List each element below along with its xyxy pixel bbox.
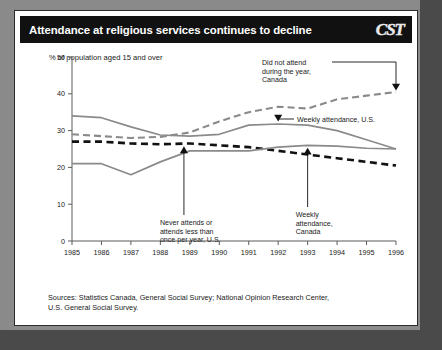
annotation-arrow [304, 148, 312, 155]
series-line [72, 142, 396, 166]
annotation-leader [332, 62, 396, 84]
x-tick-label: 1994 [329, 248, 345, 257]
annotation-label: Canada [262, 76, 287, 84]
annotation-never-attends-us: Never attends orattends less thanonce pe… [160, 219, 221, 244]
annotation-label: Did not attend [262, 59, 306, 67]
x-tick-label: 1989 [182, 248, 198, 257]
page-title: Attendance at religious services continu… [29, 24, 312, 36]
x-tick-label: 1991 [241, 248, 257, 257]
y-axis-ticks: 01020304050 [57, 53, 72, 246]
y-tick-label: 20 [57, 163, 65, 172]
annotation-label: attendance, [296, 220, 333, 228]
annotation-label: during the year, [262, 68, 311, 76]
series-line [72, 92, 396, 138]
x-tick-label: 1986 [93, 248, 109, 257]
outer-frame-right [420, 0, 442, 350]
x-tick-label: 1985 [64, 248, 80, 257]
sources-line-2: U.S. General Social Survey. [48, 303, 393, 313]
chart-sources: Sources: Statistics Canada, General Soci… [48, 293, 393, 313]
outer-frame-top [0, 0, 442, 10]
y-tick-label: 50 [57, 53, 65, 62]
y-tick-label: 40 [57, 89, 65, 98]
x-tick-label: 1987 [123, 248, 139, 257]
y-tick-label: 0 [61, 237, 65, 246]
annotation-did-not-attend-canada: Did not attendduring the year,Canada [262, 59, 311, 84]
annotation-label: once per year, U.S. [160, 236, 221, 244]
x-tick-label: 1992 [270, 248, 286, 257]
x-axis-ticks: 1985198619871988198919901991199219931994… [64, 241, 404, 257]
x-tick-label: 1990 [211, 248, 227, 257]
annotation-arrow [180, 146, 188, 153]
x-tick-label: 1995 [359, 248, 375, 257]
annotation-weekly-attendance-canada: Weeklyattendance,Canada [296, 211, 333, 236]
y-tick-label: 10 [57, 200, 65, 209]
outer-frame-bottom [0, 330, 442, 350]
annotation-label: Weekly attendance, U.S. [297, 116, 375, 124]
x-tick-label: 1988 [152, 248, 168, 257]
chart-card: Attendance at religious services continu… [14, 10, 418, 326]
chart-title-bar: Attendance at religious services continu… [20, 16, 412, 43]
annotation-label: attends less than [160, 228, 214, 236]
annotation-weekly-attendance-us: Weekly attendance, U.S. [297, 116, 375, 124]
chart-plot-area: 0102030405019851986198719881989199019911… [20, 47, 412, 287]
y-tick-label: 30 [57, 126, 65, 135]
chart-series-group [72, 92, 396, 175]
outer-frame-left [0, 0, 14, 350]
cst-logo: CST [376, 20, 404, 40]
annotation-label: Never attends or [160, 219, 213, 227]
annotation-label: Weekly [296, 211, 320, 219]
screenshot-root: Attendance at religious services continu… [0, 0, 442, 350]
annotation-arrow [392, 84, 400, 91]
sources-line-1: Sources: Statistics Canada, General Soci… [48, 293, 393, 303]
annotation-arrow [274, 115, 282, 122]
line-chart: 0102030405019851986198719881989199019911… [20, 47, 412, 287]
chart-axes [72, 57, 396, 241]
annotation-label: Canada [296, 228, 321, 236]
x-tick-label: 1996 [388, 248, 404, 257]
x-tick-label: 1993 [300, 248, 316, 257]
